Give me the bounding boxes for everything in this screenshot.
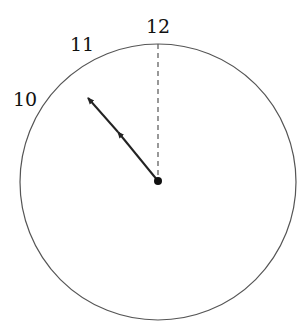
label-11: 11 <box>70 33 94 55</box>
clock-hand-outer <box>88 98 118 132</box>
clock-hand <box>118 132 158 181</box>
center-dot <box>154 177 162 185</box>
label-10: 10 <box>13 88 37 110</box>
clock-diagram: 12 11 10 <box>0 0 306 330</box>
label-12: 12 <box>146 15 170 37</box>
